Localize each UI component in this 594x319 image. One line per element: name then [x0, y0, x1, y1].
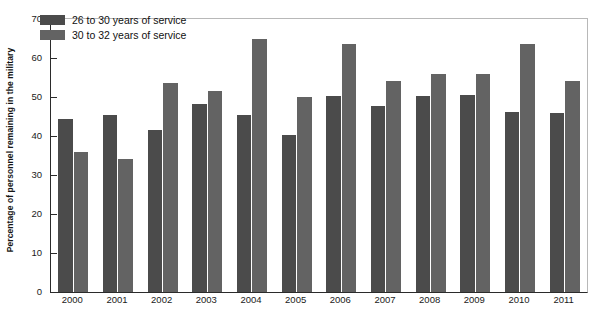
y-tick-mark-60 [51, 58, 57, 59]
bar-2009-series-1 [460, 95, 475, 292]
bar-2009-series-2 [476, 74, 491, 292]
y-tick-label-20: 20 [12, 208, 46, 219]
bar-2007-series-2 [386, 81, 401, 292]
bar-2010-series-1 [505, 112, 520, 292]
bar-group-2010 [498, 19, 543, 292]
bar-2011-series-1 [550, 113, 565, 292]
chart-legend: 26 to 30 years of service30 to 32 years … [36, 10, 190, 44]
x-axis-tick-labels: 2000200120022003200420052006200720082009… [50, 294, 586, 314]
bar-2005-series-2 [297, 97, 312, 292]
legend-label-2: 30 to 32 years of service [72, 29, 186, 41]
x-tick-label-2002: 2002 [151, 294, 172, 305]
bar-2002-series-1 [148, 130, 163, 292]
legend-label-1: 26 to 30 years of service [72, 14, 186, 26]
bar-2000-series-1 [58, 119, 73, 292]
x-tick-label-2006: 2006 [330, 294, 351, 305]
x-tick-label-2004: 2004 [240, 294, 261, 305]
bar-2002-series-2 [163, 83, 178, 292]
y-tick-label-50: 50 [12, 91, 46, 102]
bar-2011-series-2 [565, 81, 580, 292]
bar-2003-series-1 [192, 104, 207, 292]
y-tick-mark-30 [51, 175, 57, 176]
bar-2000-series-2 [74, 152, 89, 292]
bar-group-2011 [542, 19, 587, 292]
y-tick-label-10: 10 [12, 247, 46, 258]
x-tick-label-2010: 2010 [508, 294, 529, 305]
bar-2006-series-2 [342, 44, 357, 292]
bar-2005-series-1 [282, 135, 297, 292]
y-tick-mark-50 [51, 97, 57, 98]
plot-area [50, 18, 588, 293]
bar-group-2001 [96, 19, 141, 292]
x-tick-label-2003: 2003 [196, 294, 217, 305]
y-tick-label-0: 0 [12, 286, 46, 297]
bar-group-2004 [230, 19, 275, 292]
legend-swatch-1 [40, 15, 65, 25]
y-tick-mark-20 [51, 214, 57, 215]
bar-group-2002 [140, 19, 185, 292]
bar-group-2009 [453, 19, 498, 292]
x-tick-label-2007: 2007 [374, 294, 395, 305]
x-tick-label-2001: 2001 [106, 294, 127, 305]
bar-2004-series-2 [252, 39, 267, 293]
x-tick-label-2005: 2005 [285, 294, 306, 305]
bar-chart: Percentage of personnel remaining in the… [0, 0, 594, 319]
legend-swatch-2 [40, 30, 65, 40]
y-tick-label-40: 40 [12, 130, 46, 141]
legend-item-1: 26 to 30 years of service [40, 12, 186, 27]
x-tick-label-2009: 2009 [464, 294, 485, 305]
bar-2008-series-2 [431, 74, 446, 292]
y-tick-mark-40 [51, 136, 57, 137]
bar-2001-series-2 [118, 159, 133, 292]
y-tick-label-30: 30 [12, 169, 46, 180]
bar-2001-series-1 [103, 115, 118, 292]
bar-group-2005 [274, 19, 319, 292]
y-tick-mark-10 [51, 253, 57, 254]
bar-group-2003 [185, 19, 230, 292]
bar-group-2007 [364, 19, 409, 292]
x-tick-label-2008: 2008 [419, 294, 440, 305]
bar-2006-series-1 [326, 96, 341, 292]
bar-2007-series-1 [371, 106, 386, 292]
y-axis-tick-labels: 010203040506070 [12, 18, 46, 291]
legend-item-2: 30 to 32 years of service [40, 27, 186, 42]
bar-group-2008 [408, 19, 453, 292]
x-tick-label-2011: 2011 [553, 294, 573, 305]
bars-layer [51, 19, 587, 292]
bar-2008-series-1 [416, 96, 431, 292]
bar-group-2006 [319, 19, 364, 292]
x-tick-label-2000: 2000 [62, 294, 83, 305]
bar-group-2000 [51, 19, 96, 292]
y-tick-label-60: 60 [12, 52, 46, 63]
bar-2004-series-1 [237, 115, 252, 292]
bar-2010-series-2 [520, 44, 535, 292]
bar-2003-series-2 [208, 91, 223, 292]
